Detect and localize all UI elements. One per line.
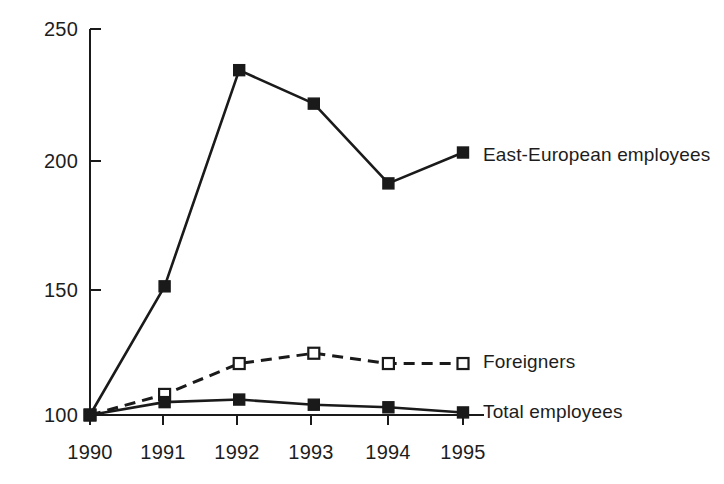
series-east-european-employees	[85, 65, 469, 421]
x-tick-label-1992: 1992	[214, 441, 259, 464]
line-chart-figure: 250 200 150 100 1990 1991 1992 1993 1994…	[0, 0, 724, 484]
marker-foreigners-1995	[458, 358, 469, 369]
marker-total-employees-1993	[308, 399, 319, 410]
marker-total-employees-1992	[234, 394, 245, 405]
marker-east-european-employees-1993	[308, 98, 319, 109]
marker-total-employees-1991	[159, 397, 170, 408]
x-axis-ticks	[90, 415, 463, 425]
x-tick-label-1991: 1991	[140, 441, 185, 464]
y-tick-label-250: 250	[18, 18, 78, 41]
x-tick-label-1994: 1994	[365, 441, 410, 464]
y-tick-label-200: 200	[18, 150, 78, 173]
series-layer	[85, 65, 469, 421]
marker-total-employees-1995	[458, 407, 469, 418]
series-line-total-employees	[90, 400, 463, 415]
marker-foreigners-1994	[383, 358, 394, 369]
x-tick-label-1990: 1990	[67, 441, 112, 464]
x-tick-label-1993: 1993	[288, 441, 333, 464]
series-label-foreigners: Foreigners	[483, 351, 575, 373]
series-label-total-employees: Total employees	[483, 401, 623, 423]
y-tick-label-100: 100	[18, 404, 78, 427]
marker-east-european-employees-1991	[159, 281, 170, 292]
marker-total-employees-1994	[383, 402, 394, 413]
marker-east-european-employees-1995	[458, 147, 469, 158]
marker-total-employees-1990	[85, 410, 96, 421]
y-axis-ticks	[90, 29, 101, 290]
marker-east-european-employees-1992	[234, 65, 245, 76]
series-total-employees	[85, 394, 469, 420]
y-tick-label-150: 150	[18, 279, 78, 302]
x-tick-label-1995: 1995	[440, 441, 485, 464]
marker-foreigners-1992	[234, 358, 245, 369]
marker-east-european-employees-1994	[383, 178, 394, 189]
marker-foreigners-1993	[308, 348, 319, 359]
series-label-east-european-employees: East-European employees	[483, 144, 710, 166]
